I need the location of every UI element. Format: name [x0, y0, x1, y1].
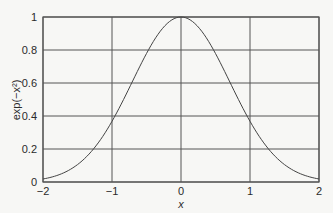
- x-tick-label: −1: [106, 185, 119, 197]
- chart: 00.20.40.60.81 −2−1012 x exp(−x²): [0, 0, 333, 213]
- y-tick-label: 1: [31, 11, 37, 23]
- grid-lines: [43, 17, 319, 182]
- y-tick-label: 0.6: [22, 77, 37, 89]
- y-axis-label: exp(−x²): [10, 80, 22, 121]
- x-tick-label: −2: [37, 185, 50, 197]
- x-tick-label: 2: [316, 185, 322, 197]
- x-tick-label: 0: [178, 185, 184, 197]
- y-tick-label: 0.4: [22, 110, 37, 122]
- y-tick-label: 0.8: [22, 44, 37, 56]
- x-axis-label: x: [177, 198, 184, 210]
- y-tick-labels: 00.20.40.60.81: [22, 11, 37, 188]
- x-tick-labels: −2−1012: [37, 185, 322, 197]
- x-tick-label: 1: [247, 185, 253, 197]
- y-tick-label: 0.2: [22, 143, 37, 155]
